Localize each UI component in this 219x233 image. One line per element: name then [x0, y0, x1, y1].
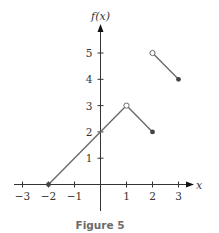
x-tick-label: 1 — [123, 190, 130, 202]
x-tick-label: −2 — [41, 190, 56, 202]
y-tick-label: 4 — [86, 73, 93, 85]
graph-segment — [127, 106, 153, 132]
y-tick-label: 3 — [86, 100, 93, 112]
closed-endpoint — [46, 182, 51, 187]
x-tick-label: −3 — [15, 190, 30, 202]
open-endpoint — [150, 50, 155, 55]
x-tick-label: −1 — [67, 190, 82, 202]
x-tick-label: 3 — [175, 190, 182, 202]
y-axis-arrow-icon — [98, 24, 104, 32]
graph-segments — [49, 53, 179, 185]
figure-caption: Figure 5 — [0, 219, 200, 231]
x-axis-arrow-icon — [186, 182, 194, 188]
axes — [14, 24, 194, 211]
open-endpoint — [124, 103, 129, 108]
closed-endpoint — [176, 77, 181, 82]
y-axis-label: f(x) — [90, 10, 110, 23]
axis-ticks: −3−2−112312345 — [15, 47, 182, 202]
function-graph: −3−2−112312345 x f(x) — [0, 0, 219, 219]
x-tick-label: 2 — [149, 190, 156, 202]
y-tick-label: 2 — [86, 126, 93, 138]
graph-segment — [153, 53, 179, 79]
y-tick-label: 5 — [86, 47, 93, 59]
graph-segment — [49, 106, 127, 185]
x-axis-label: x — [196, 179, 203, 192]
closed-endpoint — [150, 130, 155, 135]
y-tick-label: 1 — [86, 152, 93, 164]
figure: −3−2−112312345 x f(x) Figure 5 — [0, 0, 219, 233]
